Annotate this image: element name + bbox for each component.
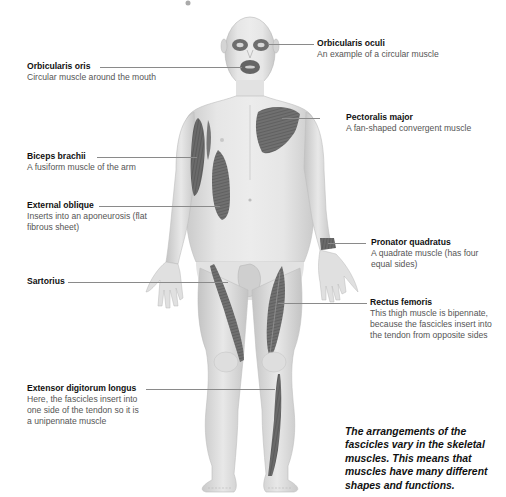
label-description: Circular muscle around the mouth (27, 72, 156, 83)
label-external-oblique: External oblique Inserts into an aponeur… (27, 200, 147, 233)
navel (248, 198, 251, 201)
leader-line-sartorius (68, 282, 228, 283)
label-extensor-digitorum-longus: Extensor digitorum longus Here, the fasc… (27, 383, 145, 427)
label-description: A fusiform muscle of the arm (27, 162, 136, 173)
label-pectoralis-major: Pectoralis major A fan-shaped convergent… (346, 112, 471, 134)
leader-line-orbicularis-oculi (268, 44, 314, 45)
label-rectus-femoris: Rectus femoris This thigh muscle is bipe… (370, 297, 504, 341)
caption: The arrangements of the fascicles vary i… (345, 425, 505, 492)
head (221, 17, 279, 87)
label-description: Here, the fascicles insert into one side… (27, 394, 145, 427)
label-name: Rectus femoris (370, 297, 504, 308)
label-name: Extensor digitorum longus (27, 383, 145, 394)
label-sartorius: Sartorius (27, 276, 65, 287)
label-name: Pectoralis major (346, 112, 471, 123)
label-description: A fan-shaped convergent muscle (346, 123, 471, 134)
right-hand (319, 250, 359, 302)
leader-line-extensor-digitorum-longus (146, 389, 275, 390)
label-name: External oblique (27, 200, 147, 211)
right-knee (262, 352, 286, 372)
label-description: A quadrate muscle (has four equal sides) (371, 248, 489, 270)
leader-line-pronator-quadratus (328, 243, 366, 244)
label-biceps-brachii: Biceps brachii A fusiform muscle of the … (27, 151, 136, 173)
leader-line-rectus-femoris (278, 303, 367, 304)
artifact (186, 1, 191, 6)
label-pronator-quadratus: Pronator quadratus A quadrate muscle (ha… (371, 237, 489, 270)
neck (236, 80, 264, 98)
label-name: Orbicularis oris (27, 61, 156, 72)
label-name: Biceps brachii (27, 151, 136, 162)
label-name: Orbicularis oculi (317, 38, 439, 49)
muscle-diagram: Orbicularis oculi An example of a circul… (0, 0, 506, 497)
left-knee (214, 352, 238, 372)
left-hand (146, 262, 183, 308)
label-description: Inserts into an aponeurosis (flat fibrou… (27, 211, 147, 233)
label-orbicularis-oris: Orbicularis oris Circular muscle around … (27, 61, 156, 83)
leader-line-pectoralis-major (282, 118, 320, 119)
label-name: Sartorius (27, 276, 65, 287)
pronator-quadratus-muscle (320, 238, 336, 250)
label-name: Pronator quadratus (371, 237, 489, 248)
label-description: An example of a circular muscle (317, 49, 439, 60)
label-description: This thigh muscle is bipennate, because … (370, 308, 504, 341)
label-orbicularis-oculi: Orbicularis oculi An example of a circul… (317, 38, 439, 60)
